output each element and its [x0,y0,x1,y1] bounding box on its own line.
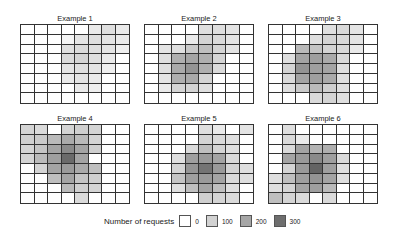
legend-title: Number of requests [104,217,174,226]
heatmap-cell [116,54,130,64]
heatmap-cell [75,145,89,155]
heatmap-cell [337,164,351,174]
heatmap-cell [350,125,364,135]
heatmap-cell [35,45,49,55]
heatmap-cell [226,84,240,94]
heatmap-cell [364,25,378,35]
heatmap-cell [21,25,35,35]
heatmap-cell [296,184,310,194]
heatmap-cell [145,84,159,94]
heatmap-cell [269,145,283,155]
heatmap-cell [35,35,49,45]
heatmap-cell [269,184,283,194]
heatmap-cell [213,45,227,55]
heatmap-cell [21,93,35,103]
heatmap-cell [283,64,297,74]
heatmap-cell [213,154,227,164]
heatmap-cell [186,154,200,164]
heatmap-cell [48,35,62,45]
heatmap-cell [89,135,103,145]
heatmap-cell [159,35,173,45]
heatmap-cell [323,154,337,164]
heatmap-cell [75,64,89,74]
heatmap-cell [172,174,186,184]
heatmap-cell [283,25,297,35]
heatmap-cell [145,174,159,184]
heatmap-cell [296,135,310,145]
heatmap-cell [213,35,227,45]
heatmap-cell [364,193,378,203]
heatmap-cell [213,125,227,135]
heatmap-cell [48,25,62,35]
heatmap-cell [75,193,89,203]
heatmap-cell [62,164,76,174]
heatmap-cell [310,74,324,84]
heatmap-cell [89,184,103,194]
heatmap-cell [350,54,364,64]
heatmap-cell [240,25,254,35]
heatmap-cell [310,184,324,194]
heatmap-cell [116,154,130,164]
heatmap-cell [159,45,173,55]
heatmap-cell [310,174,324,184]
heatmap-cell [310,154,324,164]
heatmap-cell [48,154,62,164]
heatmap-cell [102,25,116,35]
heatmap-cell [102,154,116,164]
heatmap-cell [35,84,49,94]
heatmap-grid [268,24,378,104]
heatmap-cell [337,45,351,55]
heatmap-cell [296,64,310,74]
heatmap-cell [283,93,297,103]
heatmap-cell [172,25,186,35]
heatmap-cell [296,145,310,155]
heatmap-cell [364,125,378,135]
heatmap-cell [62,54,76,64]
heatmap-cell [337,154,351,164]
heatmap-cell [296,125,310,135]
heatmap-cell [199,74,213,84]
heatmap-cell [296,174,310,184]
heatmap-cell [48,93,62,103]
heatmap-cell [283,45,297,55]
heatmap-cell [199,125,213,135]
heatmap-cell [62,35,76,45]
heatmap-cell [350,64,364,74]
heatmap-cell [116,125,130,135]
heatmap-cell [186,84,200,94]
heatmap-cell [75,54,89,64]
heatmap-cell [186,135,200,145]
heatmap-cell [35,54,49,64]
heatmap-cell [199,184,213,194]
legend-label-100: 100 [222,218,233,225]
heatmap-cell [350,93,364,103]
heatmap-cell [337,184,351,194]
heatmap-cell [89,35,103,45]
heatmap-cell [240,174,254,184]
heatmap-grid [20,24,130,104]
heatmap-cell [145,154,159,164]
heatmap-cell [364,164,378,174]
heatmap-cell [213,25,227,35]
heatmap-cell [213,174,227,184]
heatmap-cell [145,164,159,174]
heatmap-cell [213,193,227,203]
heatmap-cell [35,25,49,35]
heatmap-cell [240,74,254,84]
heatmap-cell [62,25,76,35]
heatmap-cell [89,145,103,155]
legend-label-0: 0 [195,218,199,225]
heatmap-cell [323,84,337,94]
heatmap-cell [364,154,378,164]
heatmap-cell [89,164,103,174]
legend-swatch-100 [206,215,218,227]
heatmap-cell [269,45,283,55]
heatmap-cell [337,64,351,74]
heatmap-cell [269,164,283,174]
heatmap-cell [226,184,240,194]
heatmap-cell [350,35,364,45]
heatmap-cell [102,74,116,84]
heatmap-cell [102,93,116,103]
heatmap-cell [213,145,227,155]
heatmap-cell [21,184,35,194]
